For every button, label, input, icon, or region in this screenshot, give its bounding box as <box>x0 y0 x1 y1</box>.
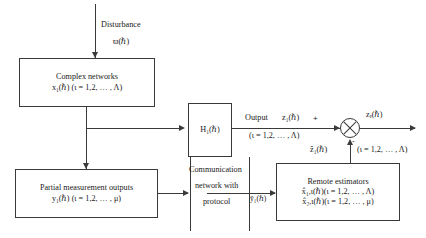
estimator-feedback-vline <box>350 145 351 163</box>
z-hat-signal-label: ẑ₁(ℏ) <box>310 145 327 155</box>
partial-measurement-block[interactable]: Partial measurement outputs y₁(ℏ) (ι = 1… <box>15 169 158 218</box>
measurement-to-network-arrowhead <box>183 190 189 196</box>
output-range-label: (ι = 1,2, … , Λ) <box>249 131 300 141</box>
estimator-feedback-hline <box>350 163 351 164</box>
communication-line-1: Communication <box>189 165 242 175</box>
disturbance-line <box>95 4 96 58</box>
y-bar-signal-label: ȳ₁(ℏ) <box>250 194 266 203</box>
complex-networks-block[interactable]: Complex networks x₁(ℏ) (ι = 1,2, … , Λ) <box>19 58 155 107</box>
plus-sign-label: + <box>313 114 318 124</box>
error-output-label: zₑ(ℏ) <box>366 110 382 120</box>
h-transfer-block[interactable]: H₁(ℏ) <box>188 103 232 157</box>
communication-line-2: network with <box>195 181 238 191</box>
complex-networks-title: Complex networks <box>56 72 118 82</box>
minus-sign-label: - <box>352 136 355 146</box>
disturbance-label: Disturbance <box>101 20 141 30</box>
remote-estimators-block[interactable]: Remote estimators x̂₁,ι(ℏ)(ι = 1,2, … , … <box>276 163 400 221</box>
remote-estimators-x1: x̂₁,ι(ℏ)(ι = 1,2, … , Λ) <box>302 187 374 197</box>
remote-estimators-title: Remote estimators <box>307 177 368 187</box>
complex-networks-state: x₁(ℏ) (ι = 1,2, … , Λ) <box>52 83 122 93</box>
state-to-h-line <box>86 128 183 129</box>
disturbance-signal-label: ϖ(ℏ) <box>113 37 129 47</box>
state-to-h-arrowhead <box>179 125 185 131</box>
remote-estimators-x2: x̂₂,ι(ℏ)(ι = 1,2, … , μ) <box>302 197 373 207</box>
output-text-label: Output <box>245 113 268 123</box>
state-trunk-line <box>86 107 87 169</box>
error-output-line <box>360 128 415 129</box>
partial-measurement-output: y₁(ℏ) (ι = 1,2, … , μ) <box>52 194 121 204</box>
partial-measurement-title: Partial measurement outputs <box>40 183 133 193</box>
diagram-canvas: Disturbance ϖ(ℏ) Complex networks x₁(ℏ) … <box>0 0 426 238</box>
output-signal-label: z₁(ℏ) <box>282 113 299 123</box>
summing-junction[interactable] <box>340 118 360 138</box>
communication-line-3: protocol <box>203 197 230 207</box>
error-output-arrowhead <box>410 125 416 131</box>
h-block-label: H₁(ℏ) <box>200 125 220 135</box>
h-output-line <box>232 128 340 129</box>
z-hat-range-label: (ι = 1,2, … , Λ) <box>357 145 408 155</box>
